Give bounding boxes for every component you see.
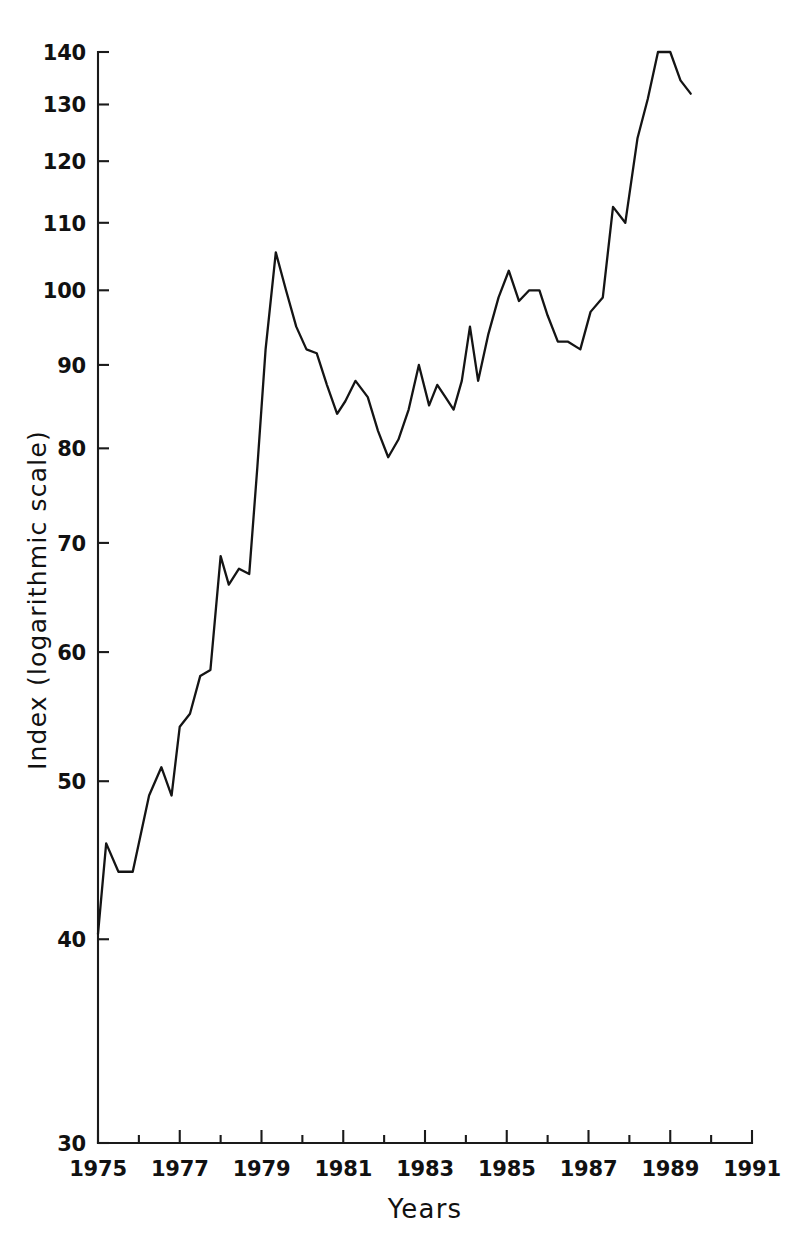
y-axis-ticks [98,52,109,1143]
x-axis-ticks [98,1130,752,1143]
data-series-line [98,52,691,934]
y-axis-tick-label: 30 [57,1132,86,1156]
x-axis-tick-label: 1991 [723,1157,781,1181]
x-axis-title: Years [387,1194,463,1224]
y-axis-tick-label: 100 [43,279,86,303]
y-axis-tick-label: 110 [43,212,86,236]
y-axis-tick-label: 80 [57,437,86,461]
x-axis-tick-label: 1983 [396,1157,454,1181]
line-chart: 30405060708090100110120130140 1975197719… [0,0,805,1248]
x-axis-tick-label: 1987 [560,1157,618,1181]
x-axis-tick-label: 1989 [641,1157,699,1181]
y-axis-tick-label: 50 [57,770,86,794]
x-axis-tick-label: 1979 [233,1157,291,1181]
y-axis-title: Index (logarithmic scale) [23,430,52,770]
x-axis-tick-labels: 197519771979198119831985198719891991 [69,1157,781,1181]
y-axis-tick-label: 70 [57,532,86,556]
y-axis-tick-label: 130 [43,93,86,117]
chart-figure: 30405060708090100110120130140 1975197719… [0,0,805,1248]
y-axis-tick-label: 140 [43,41,86,65]
y-axis-tick-label: 120 [43,150,86,174]
x-axis-tick-label: 1985 [478,1157,536,1181]
x-axis-tick-label: 1975 [69,1157,127,1181]
y-axis-tick-label: 60 [57,641,86,665]
x-axis-tick-label: 1977 [151,1157,209,1181]
y-axis-tick-label: 40 [57,928,86,952]
y-axis-tick-label: 90 [57,354,86,378]
x-axis-tick-label: 1981 [314,1157,372,1181]
axis-lines [98,52,752,1143]
